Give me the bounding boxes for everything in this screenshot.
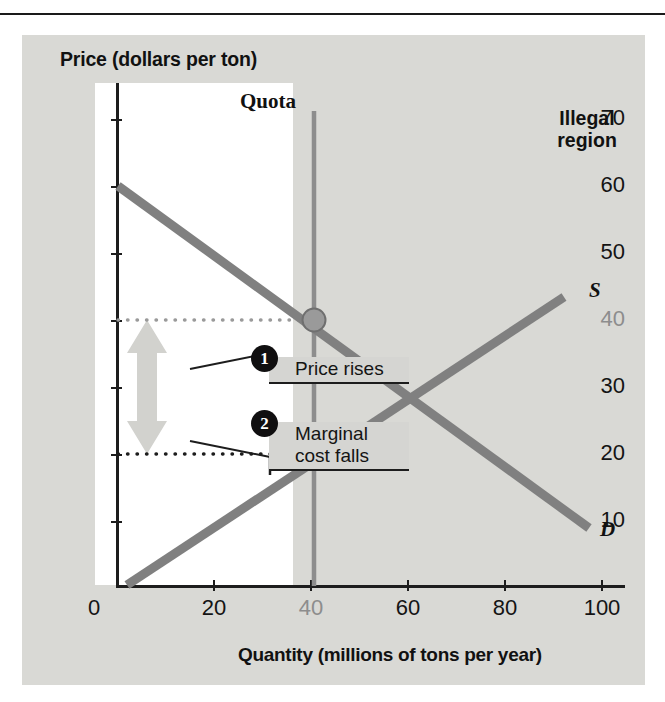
price-rises-arrow <box>127 320 167 389</box>
callout-1-text: Price rises <box>269 357 409 384</box>
y-axis-title: Price (dollars per ton) <box>60 48 257 71</box>
figure-panel: Price (dollars per ton) Quantity (millio… <box>22 35 645 685</box>
marginal-cost-falls-arrow <box>127 389 167 454</box>
top-divider-rule <box>0 13 665 15</box>
plot-area: 70 60 50 40 30 20 10 0 20 40 60 80 100 <box>95 83 625 633</box>
quota-label: Quota <box>240 89 296 114</box>
callout-1-badge: 1 <box>251 345 278 372</box>
callout-2-text: Marginal cost falls <box>269 422 409 471</box>
illegal-region-label: Illegalregion <box>527 108 647 152</box>
x-tick-label-40: 40 <box>281 595 341 621</box>
demand-curve-label: D <box>600 517 615 542</box>
curves-layer <box>95 83 625 593</box>
callout-2-badge: 2 <box>251 410 278 437</box>
x-tick-label-0: 0 <box>72 595 116 621</box>
x-tick-label-60: 60 <box>378 595 438 621</box>
x-tick-label-100: 100 <box>572 595 632 621</box>
quota-price-point <box>303 309 326 332</box>
x-tick-label-80: 80 <box>475 595 535 621</box>
supply-curve-label: S <box>589 278 601 303</box>
x-axis-title: Quantity (millions of tons per year) <box>238 644 542 666</box>
x-tick-label-20: 20 <box>184 595 244 621</box>
